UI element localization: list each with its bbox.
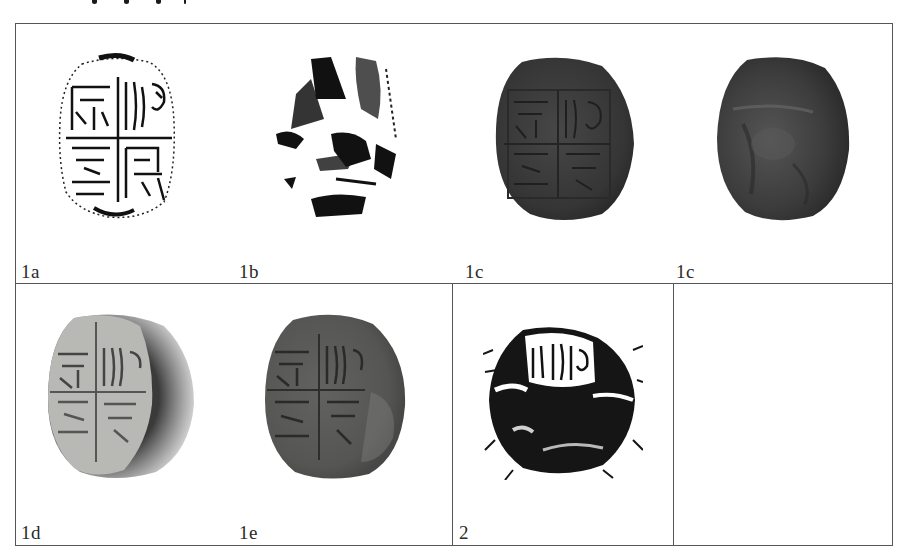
seal-rubbing-2-image xyxy=(483,320,643,480)
panel-1b: 1b xyxy=(236,24,452,282)
seal-photo-1c-reverse-image xyxy=(713,54,853,224)
panel-1d: 1d xyxy=(16,284,236,545)
seal-photo-1d-image xyxy=(44,312,199,482)
panel-label-2: 2 xyxy=(459,523,469,542)
seal-photo-1e-image xyxy=(261,312,411,484)
seal-rubbing-1b-image xyxy=(256,49,406,224)
panel-label-1d: 1d xyxy=(21,523,41,542)
panel-label-1a: 1a xyxy=(21,262,40,281)
seal-rubbing-1a-image xyxy=(54,52,179,222)
panel-label-1e: 1e xyxy=(239,523,258,542)
panel-1c-obverse: 1c xyxy=(452,24,673,282)
panel-1e: 1e xyxy=(236,284,452,545)
panel-label-1b: 1b xyxy=(239,262,259,281)
panel-1a: 1a xyxy=(16,24,236,282)
panel-1c-reverse: 1c xyxy=(673,24,892,282)
panel-2: 2 xyxy=(453,284,673,545)
seal-photo-1c-obverse-image xyxy=(492,54,637,224)
panel-empty xyxy=(674,284,892,545)
panel-label-1c-reverse: 1c xyxy=(676,262,695,281)
panel-label-1c-obverse: 1c xyxy=(465,262,484,281)
cropped-caption-remnant xyxy=(80,0,200,6)
